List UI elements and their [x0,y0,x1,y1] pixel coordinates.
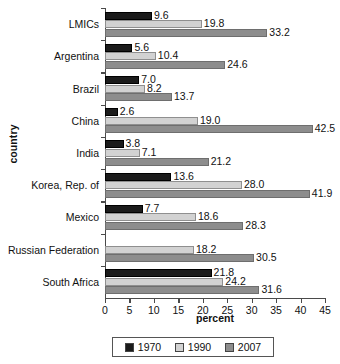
bar-1990: 8.2 [105,85,145,93]
chart-legend: 1970 1990 2007 [112,337,274,357]
bar-2007: 41.9 [105,190,310,198]
bar-2007: 24.6 [105,61,225,69]
bar-group: India3.87.121.2 [105,137,325,169]
bar-value-label: 13.7 [174,91,194,103]
bar-group: Brazil7.08.213.7 [105,72,325,104]
y-axis-tick-label: Mexico [66,211,99,223]
bar-1990: 19.0 [105,117,198,125]
bar-value-label: 28.3 [245,219,265,231]
bar-group: Argentina5.610.424.6 [105,40,325,72]
x-axis-title: percent [105,312,325,324]
y-axis-tick [101,40,106,41]
bar-value-label: 28.0 [244,179,264,191]
bar-value-label: 2.6 [120,106,135,118]
bar-2007: 33.2 [105,29,267,37]
bar-value-label: 33.2 [269,26,289,38]
bar-value-label: 42.5 [315,123,335,135]
bar-value-label: 5.6 [134,41,149,53]
y-axis-tick-label: Russian Federation [8,244,99,256]
bar-2007: 21.2 [105,158,209,166]
legend-item-1990: 1990 [175,341,211,353]
legend-swatch-icon-1970 [125,343,134,352]
y-axis-tick-label: India [76,147,99,159]
y-axis-title: country [7,109,19,179]
x-axis-tick [203,298,204,303]
y-axis-tick [101,266,106,267]
x-axis-tick [105,298,106,303]
bar-1990: 7.1 [105,149,140,157]
y-axis-tick [101,72,106,73]
bar-value-label: 7.7 [145,202,160,214]
y-axis-tick-label: China [72,115,99,127]
y-axis-tick-label: LMICs [69,18,99,30]
bar-value-label: 41.9 [312,187,332,199]
x-axis-tick [252,298,253,303]
bar-value-label: 30.5 [256,252,276,264]
bar-value-label: 18.2 [196,243,216,255]
legend-item-1970: 1970 [125,341,161,353]
y-axis-tick [101,105,106,106]
y-axis-tick [101,201,106,202]
bar-value-label: 7.1 [142,146,157,158]
bar-value-label: 18.6 [198,211,218,223]
bar-1990: 24.2 [105,278,223,286]
bar-2007: 30.5 [105,254,254,262]
y-axis-tick-label: Argentina [54,50,99,62]
x-axis-tick [227,298,228,303]
y-axis-tick [101,169,106,170]
bar-group: Russian Federation18.230.5 [105,234,325,266]
legend-swatch-icon-2007 [225,343,234,352]
bar-1990: 19.8 [105,20,202,28]
bar-value-label: 8.2 [147,82,162,94]
y-axis-tick [101,137,106,138]
bar-2007: 28.3 [105,222,243,230]
x-axis-tick [276,298,277,303]
bar-1970: 21.8 [105,269,212,277]
y-axis-tick-label: Brazil [73,83,99,95]
bar-1970: 3.8 [105,140,124,148]
legend-item-2007: 2007 [225,341,261,353]
bar-group: South Africa21.824.231.6 [105,266,325,298]
bar-1990: 18.6 [105,213,196,221]
bar-value-label: 31.6 [261,284,281,296]
legend-label-1990: 1990 [188,341,211,353]
bar-1970: 13.6 [105,173,171,181]
bar-value-label: 21.2 [211,155,231,167]
legend-label-1970: 1970 [138,341,161,353]
bar-value-label: 9.6 [154,9,169,21]
x-axis-tick [154,298,155,303]
x-axis-line [105,298,326,299]
bar-1990: 28.0 [105,181,242,189]
bar-1970: 7.7 [105,205,143,213]
bar-value-label: 3.8 [126,138,141,150]
bar-value-label: 24.2 [225,275,245,287]
legend-swatch-icon-1990 [175,343,184,352]
bar-group: LMICs9.619.833.2 [105,8,325,40]
bar-group: Korea, Rep. of13.628.041.9 [105,169,325,201]
bar-2007: 42.5 [105,125,313,133]
bar-value-label: 10.4 [158,50,178,62]
y-axis-tick-label: South Africa [42,276,99,288]
legend-label-2007: 2007 [238,341,261,353]
y-axis-tick [101,8,106,9]
bar-chart: country LMICs9.619.833.2Argentina5.610.4… [0,0,340,364]
bar-value-label: 19.8 [204,18,224,30]
x-axis-tick [301,298,302,303]
bar-group: China2.619.042.5 [105,105,325,137]
bar-1990: 18.2 [105,246,194,254]
x-axis-tick [178,298,179,303]
x-axis-tick [325,298,326,303]
bar-1970: 2.6 [105,108,118,116]
x-axis-tick [129,298,130,303]
bar-group: Mexico7.718.628.3 [105,201,325,233]
bar-1970: 5.6 [105,44,132,52]
bar-value-label: 24.6 [227,58,247,70]
y-axis-tick-label: Korea, Rep. of [31,179,99,191]
bar-1990: 10.4 [105,52,156,60]
y-axis-tick [101,234,106,235]
plot-area: LMICs9.619.833.2Argentina5.610.424.6Braz… [105,8,325,298]
bar-1970: 9.6 [105,12,152,20]
bar-value-label: 19.0 [200,114,220,126]
bar-value-label: 13.6 [173,170,193,182]
bar-1970: 7.0 [105,76,139,84]
